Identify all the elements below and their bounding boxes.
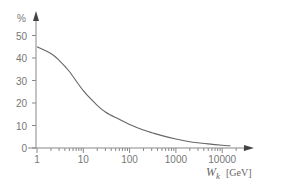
y-tick-label: 50 [16,31,28,42]
x-tick-label: 1 [34,154,40,165]
x-tick-label: 10 [78,154,90,165]
x-axis-arrow-icon [244,145,254,151]
y-axis-label: % [17,13,26,24]
x-tick-label: 10000 [208,154,236,165]
x-tick-label: 1000 [165,154,188,165]
x-axis-title: Wk[GeV] [206,165,252,181]
y-axis-arrow-icon [33,11,39,21]
data-curve [37,47,230,146]
y-tick-label: 0 [21,143,27,154]
y-tick-label: 10 [16,121,28,132]
y-tick-label: 30 [16,76,28,87]
x-axis-ticks: 110100100010000 [34,148,244,165]
x-tick-label: 100 [121,154,138,165]
y-tick-label: 20 [16,98,28,109]
chart: 01020304050 110100100010000 % Wk[GeV] [0,0,287,188]
y-axis-ticks: 01020304050 [16,31,36,155]
y-tick-label: 40 [16,53,28,64]
